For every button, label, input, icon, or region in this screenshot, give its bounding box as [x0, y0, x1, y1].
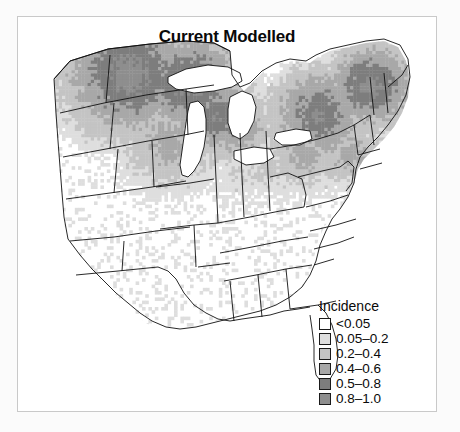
legend-row: 0.8–1.0 — [319, 391, 425, 406]
legend-row: 0.5–0.8 — [319, 376, 425, 391]
legend-label: 0.8–1.0 — [336, 392, 381, 406]
legend-title: Incidence — [319, 298, 425, 314]
legend-row: 0.2–0.4 — [319, 346, 425, 361]
legend-label: 0.2–0.4 — [336, 347, 381, 361]
legend-label: 0.5–0.8 — [336, 377, 381, 391]
legend-row: 0.4–0.6 — [319, 361, 425, 376]
legend-swatch — [319, 348, 331, 360]
legend-swatch — [319, 393, 331, 405]
legend-swatch — [319, 378, 331, 390]
figure-title: Current Modelled — [18, 27, 436, 47]
legend-swatch — [319, 363, 331, 375]
legend-label: 0.4–0.6 — [336, 362, 381, 376]
legend-label: 0.05–0.2 — [336, 332, 389, 346]
legend-label: <0.05 — [336, 317, 370, 331]
legend-swatch — [319, 333, 331, 345]
legend-swatch — [319, 318, 331, 330]
gulf-coast — [176, 279, 310, 321]
legend-row: 0.05–0.2 — [319, 331, 425, 346]
map-legend: Incidence <0.050.05–0.20.2–0.40.4–0.60.5… — [307, 298, 425, 406]
figure-panel: Current Modelled Incidence <0.050.05–0.2… — [17, 16, 437, 412]
legend-entries: <0.050.05–0.20.2–0.40.4–0.60.5–0.80.8–1.… — [307, 316, 425, 406]
legend-row: <0.05 — [319, 316, 425, 331]
